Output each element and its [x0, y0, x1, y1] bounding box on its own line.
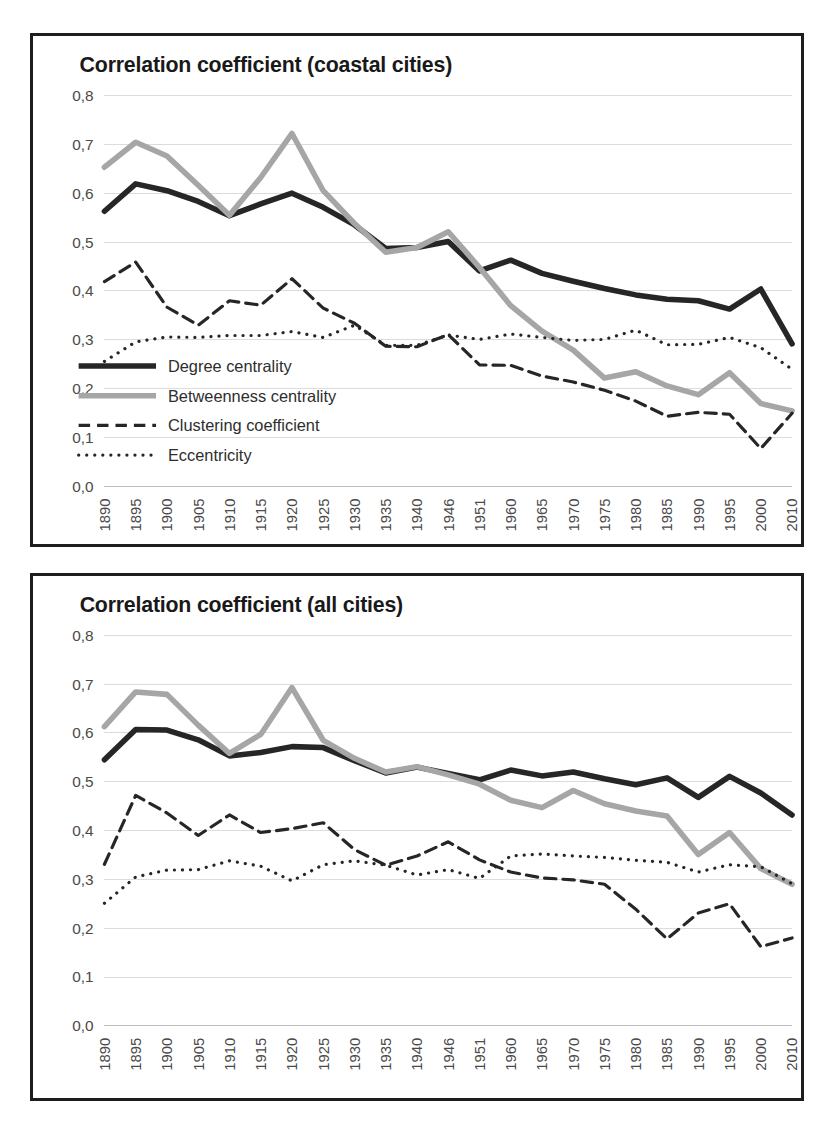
x-axis-tick-label: 1951	[472, 1038, 488, 1071]
x-axis-tick-label: 1915	[253, 1038, 269, 1071]
y-axis-tick-label: 0,6	[72, 724, 93, 741]
x-axis-tick-label: 1930	[347, 1038, 363, 1071]
x-axis-tick-label: 2010	[784, 1038, 800, 1071]
x-axis-tick-label: 1915	[253, 499, 269, 532]
x-axis-tick-label: 1900	[159, 499, 175, 532]
x-axis-tick-label: 1910	[222, 499, 238, 532]
legend-label-clustering-coefficient: Clustering coefficient	[168, 416, 320, 434]
x-axis-tick-label: 1890	[97, 1038, 113, 1071]
x-axis-tick-label: 1975	[597, 1038, 613, 1071]
x-axis-tick-label: 2000	[753, 499, 769, 532]
y-axis-tick-label: 0,0	[72, 1017, 93, 1034]
x-axis-tick-label: 1895	[128, 1038, 144, 1071]
x-axis-tick-label: 1890	[97, 499, 113, 532]
x-axis-tick-label: 1985	[659, 1038, 675, 1071]
y-axis-tick-label: 0,4	[72, 822, 94, 839]
coastal-cities-line-chart: Correlation coefficient (coastal cities)…	[33, 36, 801, 544]
y-axis-tick-label: 0,7	[72, 676, 93, 693]
x-axis-tick-label: 1960	[503, 1038, 519, 1071]
y-axis-tick-label: 0,3	[72, 871, 93, 888]
y-axis-tick-label: 0,1	[72, 968, 93, 985]
x-axis-tick-label: 1935	[378, 1038, 394, 1071]
x-axis-tick-label: 1990	[691, 499, 707, 532]
x-axis-tick-label: 1965	[534, 499, 550, 532]
chart-title: Correlation coefficient (all cities)	[80, 593, 404, 617]
y-axis-tick-label: 0,6	[72, 185, 93, 202]
x-axis-tick-label: 1965	[534, 1038, 550, 1071]
series-line-eccentricity	[104, 854, 792, 903]
y-axis-tick-label: 0,1	[72, 429, 93, 446]
x-axis-tick-label: 1935	[378, 499, 394, 532]
x-axis-tick-label: 1946	[441, 499, 457, 532]
y-axis-tick-label: 0,4	[72, 282, 94, 299]
x-axis-tick-label: 1995	[722, 499, 738, 532]
y-axis-tick-label: 0,0	[72, 478, 93, 495]
x-axis-tick-label: 1920	[284, 499, 300, 532]
y-axis-tick-label: 0,7	[72, 136, 93, 153]
series-line-clustering-coefficient	[104, 795, 792, 946]
x-axis-tick-label: 1905	[191, 499, 207, 532]
x-axis-tick-label: 1970	[566, 1038, 582, 1071]
x-axis-tick-label: 1975	[597, 499, 613, 532]
x-axis-tick-label: 2010	[784, 499, 800, 532]
y-axis-tick-label: 0,5	[72, 234, 93, 251]
y-axis-tick-label: 0,2	[72, 920, 93, 937]
x-axis-tick-label: 1985	[659, 499, 675, 532]
x-axis-tick-label: 1910	[222, 1038, 238, 1071]
chart-title: Correlation coefficient (coastal cities)	[80, 53, 453, 77]
x-axis-tick-label: 1946	[441, 1038, 457, 1071]
x-axis-tick-label: 1905	[191, 1038, 207, 1071]
y-axis-tick-label: 0,8	[72, 87, 93, 104]
x-axis-tick-label: 1960	[503, 499, 519, 532]
x-axis-tick-label: 1980	[628, 499, 644, 532]
x-axis-tick-label: 1990	[691, 1038, 707, 1071]
x-axis-tick-label: 1951	[472, 499, 488, 532]
x-axis-tick-label: 1980	[628, 1038, 644, 1071]
legend-label-degree-centrality: Degree centrality	[168, 357, 293, 375]
x-axis-tick-label: 1970	[566, 499, 582, 532]
legend-label-betweenness-centrality: Betweenness centrality	[168, 387, 337, 405]
chart-panel-all-cities: Correlation coefficient (all cities)0,00…	[30, 573, 804, 1101]
y-axis-tick-label: 0,5	[72, 773, 93, 790]
x-axis-tick-label: 1920	[284, 1038, 300, 1071]
x-axis-tick-label: 1895	[128, 499, 144, 532]
x-axis-tick-label: 2000	[753, 1038, 769, 1071]
series-line-betweenness-centrality	[104, 688, 792, 885]
x-axis-tick-label: 1925	[316, 499, 332, 532]
x-axis-tick-label: 1995	[722, 1038, 738, 1071]
chart-panel-coastal-cities: Correlation coefficient (coastal cities)…	[30, 33, 804, 547]
x-axis-tick-label: 1925	[316, 1038, 332, 1071]
x-axis-tick-label: 1900	[159, 1038, 175, 1071]
y-axis-tick-label: 0,8	[72, 627, 93, 644]
legend-label-eccentricity: Eccentricity	[168, 446, 252, 464]
figure-page: Correlation coefficient (coastal cities)…	[0, 0, 833, 1140]
all-cities-line-chart: Correlation coefficient (all cities)0,00…	[33, 576, 801, 1098]
y-axis-tick-label: 0,3	[72, 331, 93, 348]
x-axis-tick-label: 1940	[409, 499, 425, 532]
x-axis-tick-label: 1940	[409, 1038, 425, 1071]
x-axis-tick-label: 1930	[347, 499, 363, 532]
